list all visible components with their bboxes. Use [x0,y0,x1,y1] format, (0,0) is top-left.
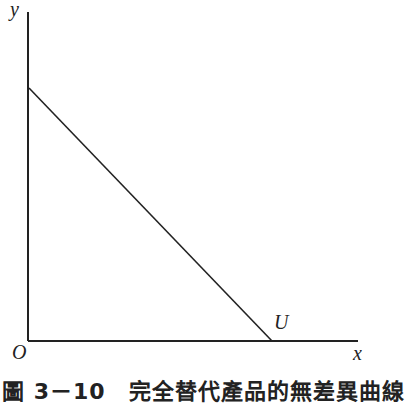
indifference-curve-u [29,88,272,341]
y-axis-label: y [10,0,19,21]
figure-caption: 圖 3－10 完全替代產品的無差異曲線 [2,373,405,405]
curve-label-u: U [274,311,288,334]
origin-label: O [12,341,26,364]
x-axis-label: x [353,342,362,365]
